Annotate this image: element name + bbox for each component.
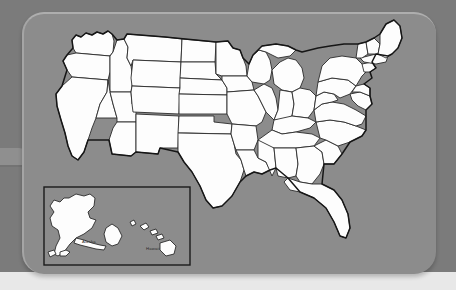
screenshot-canvas: Alaska Hawaii [0, 0, 456, 290]
bottom-strip [0, 272, 456, 290]
map-card-panel[interactable] [22, 12, 436, 274]
panel-highlight-edge [22, 12, 436, 274]
